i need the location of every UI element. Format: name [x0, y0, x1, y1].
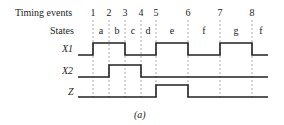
event-gridlines — [93, 20, 252, 100]
waveform-x1 — [78, 43, 268, 55]
waveform-z — [78, 85, 268, 97]
waveform-canvas — [0, 0, 284, 125]
figure-caption: (a) — [134, 110, 146, 120]
waveform-x2 — [78, 65, 268, 77]
